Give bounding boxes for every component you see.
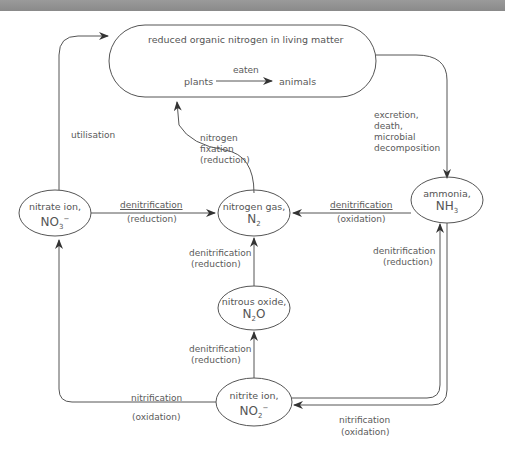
nitrite-to-nitrate-label-2: (oxidation) <box>132 412 181 423</box>
ammonia-to-n2-label-1: denitrification <box>330 200 393 211</box>
nitrous-oxide-node-label: nitrous oxide, N2O <box>219 295 289 326</box>
nitrite-formula: NO2− <box>219 402 289 423</box>
nitrite-node-label: nitrite ion, NO2− <box>219 389 289 423</box>
nitrite-name: nitrite ion, <box>219 389 289 402</box>
n2o-to-n2-label-2: (reduction) <box>191 259 241 270</box>
nitrite-to-nitrate-label-1: nitrification <box>131 393 182 404</box>
nitrate-formula: NO3− <box>20 213 90 234</box>
living-matter-label: reduced organic nitrogen in living matte… <box>148 33 338 46</box>
ammonia-to-n2-label-2: (oxidation) <box>337 214 386 225</box>
n2o-to-n2-label-1: denitrification <box>189 248 252 259</box>
nitrate-to-n2-label-1: denitrification <box>120 200 183 211</box>
nitrate-name: nitrate ion, <box>20 200 90 213</box>
nitrite-to-n2o-label-1: denitrification <box>189 344 252 355</box>
ammonia-formula: NH3 <box>412 200 482 218</box>
ammonia-to-nitrite-label-1: nitrification <box>339 415 390 426</box>
nitrite-to-n2o-label-2: (reduction) <box>191 355 241 366</box>
nitrite-to-ammonia-label-2: (reduction) <box>383 257 433 268</box>
excretion-label-1: excretion, <box>374 110 419 121</box>
excretion-label-3: microbial <box>374 132 415 143</box>
animals-label: animals <box>279 76 316 87</box>
fixation-label-3: (reduction) <box>200 155 250 166</box>
nitrate-node-label: nitrate ion, NO3− <box>20 200 90 234</box>
ammonia-to-nitrite-label-2: (oxidation) <box>341 427 390 438</box>
nitrous-oxide-formula: N2O <box>219 308 289 326</box>
ammonia-node-label: ammonia, NH3 <box>412 187 482 218</box>
eaten-label: eaten <box>233 65 259 76</box>
utilisation-label: utilisation <box>71 130 115 141</box>
excretion-label-4: decomposition <box>374 143 440 154</box>
plants-label: plants <box>184 76 213 87</box>
nitrous-oxide-name: nitrous oxide, <box>219 295 289 308</box>
nitrite-to-ammonia-label-1: denitrification <box>373 246 436 257</box>
fixation-label-2: fixation <box>200 144 234 155</box>
nitrate-to-n2-label-2: (reduction) <box>127 214 177 225</box>
nitrogen-gas-formula: N2 <box>219 213 289 231</box>
nitrogen-gas-node-label: nitrogen gas, N2 <box>219 200 289 231</box>
excretion-label-2: death, <box>374 121 403 132</box>
fixation-label-1: nitrogen <box>200 133 238 144</box>
